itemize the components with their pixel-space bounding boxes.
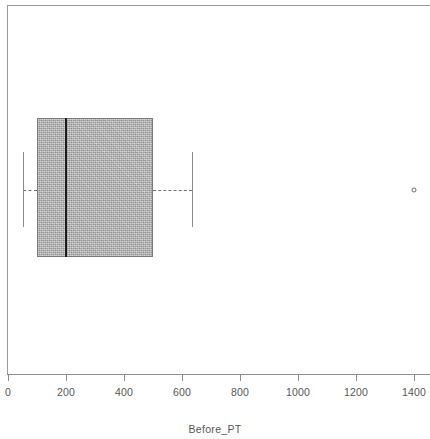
x-axis-tick — [8, 375, 9, 381]
whisker-high-cap — [192, 152, 193, 227]
x-axis-tick-label: 1400 — [402, 386, 426, 398]
x-axis-tick — [66, 375, 67, 381]
x-axis-tick — [356, 375, 357, 381]
whisker-low-cap — [23, 152, 24, 227]
x-axis-tick-label: 1200 — [344, 386, 368, 398]
x-axis-tick-label: 1000 — [286, 386, 310, 398]
outlier-point — [412, 187, 417, 192]
x-axis-tick-label: 200 — [57, 386, 75, 398]
plot-frame-top-border — [7, 5, 430, 6]
whisker-low-line — [23, 190, 38, 191]
x-axis-tick-label: 800 — [231, 386, 249, 398]
x-axis-tick — [182, 375, 183, 381]
x-axis-line — [7, 374, 430, 375]
x-axis-tick-label: 0 — [5, 386, 11, 398]
plot-frame-left-border — [7, 5, 8, 375]
x-axis-tick — [414, 375, 415, 381]
whisker-high-line — [153, 190, 192, 191]
x-axis-tick — [240, 375, 241, 381]
box-iqr-rect — [37, 118, 153, 257]
x-axis-title: Before_PT — [0, 423, 430, 435]
x-axis-tick-label: 600 — [173, 386, 191, 398]
x-axis-tick — [298, 375, 299, 381]
box-plot-figure: 0200400600800100012001400 Before_PT — [0, 0, 430, 439]
x-axis-tick-label: 400 — [115, 386, 133, 398]
median-line — [65, 118, 67, 257]
x-axis-tick — [124, 375, 125, 381]
